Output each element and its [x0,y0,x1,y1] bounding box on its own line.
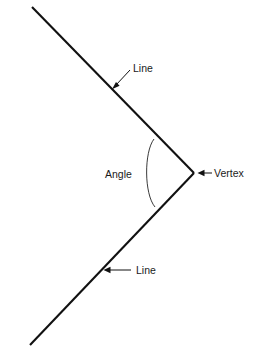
lower-line-annotation: Line [104,264,157,276]
vertex-arrow-icon [198,170,205,177]
angle-annotation: Angle [105,168,132,180]
lower-ray-line [30,173,194,345]
upper-line-annotation: Line [112,62,153,89]
angle-arc [147,139,155,207]
upper-ray-line [32,7,194,173]
angle-label: Angle [105,168,132,180]
angle-diagram-canvas: Line Angle Line Vertex [0,0,260,350]
angle-diagram-svg: Line Angle Line Vertex [0,0,260,350]
vertex-label: Vertex [214,167,245,179]
upper-line-leader [116,70,130,85]
upper-line-label: Line [133,62,153,74]
lower-line-label: Line [136,264,156,276]
vertex-annotation: Vertex [198,167,245,179]
upper-line-arrow-icon [112,82,120,89]
